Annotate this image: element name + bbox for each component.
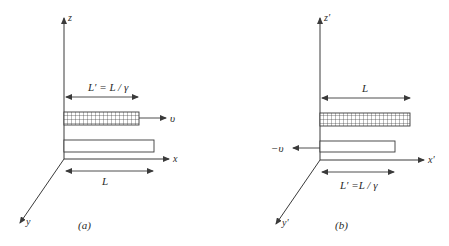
panel-a <box>20 18 169 223</box>
velocity-label: υ <box>170 113 175 124</box>
panel-b <box>276 18 424 224</box>
panel-caption: (a) <box>78 220 91 231</box>
bottom-dimension-label: L′ =L / γ <box>340 180 378 191</box>
x-prime-axis-label: x′ <box>428 155 435 165</box>
z-prime-axis-label: z′ <box>324 13 330 23</box>
bottom-dimension-label: L <box>102 176 108 187</box>
moving-rod-grid <box>64 112 139 125</box>
top-dimension-label: L′ = L / γ <box>88 82 128 93</box>
top-dimension-label: L <box>362 83 368 94</box>
panel-caption: (b) <box>335 220 348 231</box>
stationary-rod <box>64 140 154 152</box>
y-axis-label: y <box>26 217 30 227</box>
velocity-label: −υ <box>271 143 283 154</box>
stationary-rod-grid <box>320 113 410 126</box>
diagram-canvas <box>0 0 449 246</box>
z-axis-label: z <box>68 13 72 23</box>
moving-rod <box>320 141 395 152</box>
y-prime-axis <box>276 160 320 224</box>
x-axis-label: x <box>173 154 177 164</box>
y-prime-axis-label: y′ <box>282 218 289 228</box>
y-axis <box>20 159 64 223</box>
